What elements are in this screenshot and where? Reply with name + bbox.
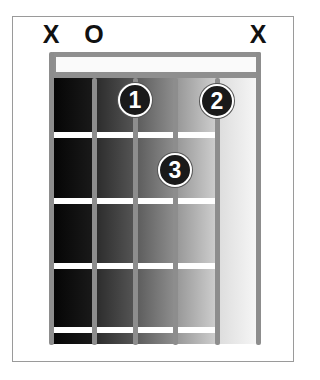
finger-dot-2: 2	[200, 84, 234, 118]
string-gap-5	[217, 78, 258, 344]
string-4	[173, 78, 178, 345]
nut	[51, 52, 261, 78]
muted-string-marker-6: X	[246, 21, 270, 47]
finger-dot-1: 1	[118, 83, 152, 117]
string-gap-2	[94, 78, 135, 344]
string-5	[215, 78, 220, 345]
finger-dot-3: 3	[158, 153, 192, 187]
string-1	[49, 52, 54, 345]
nut-inner	[56, 57, 256, 72]
string-2	[92, 78, 97, 345]
string-6	[256, 52, 261, 345]
string-gap-1	[53, 78, 94, 344]
string-gap-4	[175, 78, 217, 344]
open-string-marker-2: O	[82, 21, 106, 47]
muted-string-marker-1: X	[39, 21, 63, 47]
string-3	[133, 78, 138, 345]
string-gap-3	[135, 78, 175, 344]
